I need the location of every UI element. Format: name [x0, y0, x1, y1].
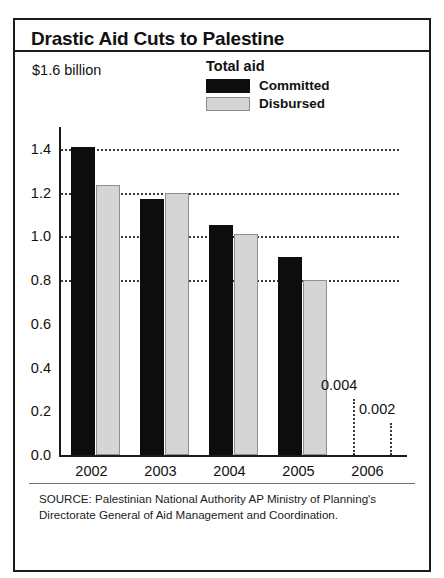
legend-item-committed: Committed: [206, 78, 330, 93]
bar-2004-disbursed: [234, 234, 258, 455]
bar-2003-disbursed: [165, 193, 189, 455]
title-divider: [15, 50, 429, 52]
y-axis-line: [59, 127, 61, 457]
bar-2002-committed: [71, 147, 95, 455]
x-axis-label-2004: 2004: [199, 463, 260, 479]
bar-2005-committed: [278, 257, 302, 455]
y-axis-tick-label: 0.4: [31, 360, 51, 376]
legend-label-committed: Committed: [259, 78, 330, 93]
bar-2005-disbursed: [303, 280, 327, 455]
y-axis-tick-label: 0.8: [31, 272, 51, 288]
legend-item-disbursed: Disbursed: [206, 96, 330, 111]
annotation-leader-line: [390, 423, 392, 455]
page-title: Drastic Aid Cuts to Palestine: [31, 28, 284, 50]
x-axis-label-2006: 2006: [337, 463, 398, 479]
annotation-leader-line: [353, 399, 355, 455]
source-note: SOURCE: Palestinian National Authority A…: [39, 491, 411, 522]
y-axis-tick-label: 1.2: [31, 185, 51, 201]
legend: Total aid Committed Disbursed: [206, 58, 330, 114]
bar-2002-disbursed: [96, 185, 120, 455]
x-axis-line: [59, 455, 407, 457]
x-axis-label-2003: 2003: [130, 463, 191, 479]
annotation-committed-2006: 0.004: [321, 377, 357, 393]
bar-2003-committed: [140, 199, 164, 455]
y-axis-tick-label: 0.2: [31, 403, 51, 419]
bar-chart-plot: 0.00.20.40.60.81.01.21.42002200320042005…: [59, 127, 417, 457]
annotation-disbursed-2006: 0.002: [359, 401, 395, 417]
x-axis-label-2005: 2005: [268, 463, 329, 479]
y-axis-tick-label: 1.0: [31, 228, 51, 244]
legend-swatch-disbursed: [206, 97, 250, 111]
y-axis-tick-label: 0.0: [31, 447, 51, 463]
legend-swatch-committed: [206, 79, 250, 93]
legend-title: Total aid: [206, 58, 330, 74]
x-axis-label-2002: 2002: [61, 463, 122, 479]
gridline: [61, 149, 399, 151]
y-axis-unit-label: $1.6 billion: [32, 62, 101, 78]
bar-2004-committed: [209, 225, 233, 455]
y-axis-tick-label: 0.6: [31, 316, 51, 332]
chart-card: Drastic Aid Cuts to Palestine $1.6 billi…: [13, 18, 431, 572]
y-axis-tick-label: 1.4: [31, 141, 51, 157]
legend-label-disbursed: Disbursed: [259, 96, 325, 111]
source-divider: [29, 483, 415, 484]
